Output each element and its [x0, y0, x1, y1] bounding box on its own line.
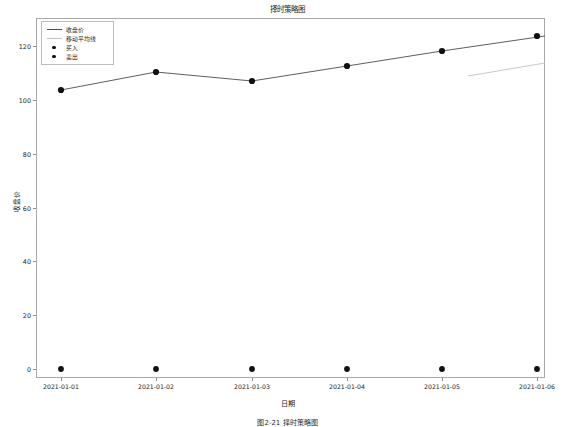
chart-figure: 择时策略图 0 20 40 60 80 100 120: [0, 0, 575, 427]
x-tick-label: 2021-01-01: [26, 383, 96, 390]
line-swatch-icon: [45, 38, 63, 39]
y-tick-label: 80: [5, 151, 31, 159]
legend-label: 收盘价: [63, 25, 84, 34]
x-tick-mark: [61, 378, 62, 381]
x-tick-mark: [442, 378, 443, 381]
legend-item-moving-average: 移动平均线: [45, 34, 109, 43]
legend-label: 买入: [63, 43, 78, 52]
y-tick-mark: [33, 315, 36, 316]
dot-swatch-icon: [45, 55, 63, 58]
legend-label: 卖出: [63, 52, 78, 61]
y-tick-label: 100: [5, 97, 31, 105]
x-tick-label: 2021-01-03: [217, 383, 287, 390]
y-tick-mark: [33, 154, 36, 155]
x-tick-mark: [537, 378, 538, 381]
legend-label: 移动平均线: [63, 34, 96, 43]
y-tick-mark: [33, 261, 36, 262]
y-tick-mark: [33, 208, 36, 209]
x-tick-label: 2021-01-06: [502, 383, 572, 390]
y-tick-label: 120: [5, 43, 31, 51]
x-tick-mark: [156, 378, 157, 381]
legend-item-sell: 卖出: [45, 52, 109, 61]
y-tick-mark: [33, 100, 36, 101]
y-axis-label: 收盘价: [11, 171, 21, 231]
legend-item-buy: 买入: [45, 43, 109, 52]
x-tick-mark: [252, 378, 253, 381]
line-swatch-icon: [45, 29, 63, 30]
x-axis-label: 日期: [0, 398, 575, 408]
legend-item-closing-price: 收盘价: [45, 25, 109, 34]
dot-swatch-icon: [45, 46, 63, 49]
y-tick-label: 20: [5, 312, 31, 320]
y-tick-label: 0: [5, 366, 31, 374]
figure-caption: 图2-21 择时策略图: [0, 417, 575, 427]
y-tick-mark: [33, 46, 36, 47]
y-tick-label: 40: [5, 258, 31, 266]
x-tick-mark: [347, 378, 348, 381]
x-tick-label: 2021-01-05: [407, 383, 477, 390]
x-tick-label: 2021-01-02: [121, 383, 191, 390]
x-tick-label: 2021-01-04: [312, 383, 382, 390]
y-tick-mark: [33, 369, 36, 370]
chart-legend: 收盘价 移动平均线 买入 卖出: [41, 21, 114, 65]
